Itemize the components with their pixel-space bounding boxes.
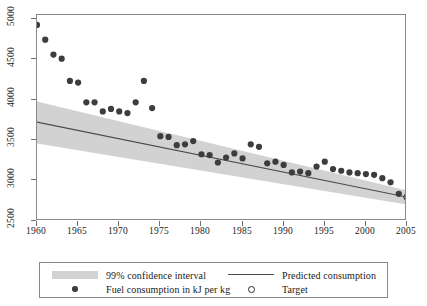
data-point bbox=[346, 169, 352, 175]
x-tick-label-2005: 2005 bbox=[386, 226, 426, 236]
data-point bbox=[207, 152, 213, 158]
fuel-consumption-chart-figure: 2500 3000 3500 4000 4500 5000 1960 1965 … bbox=[0, 0, 427, 306]
x-tick-label-1995: 1995 bbox=[304, 226, 344, 236]
y-tick-5000 bbox=[31, 18, 36, 19]
data-point bbox=[338, 168, 344, 174]
data-point bbox=[67, 78, 73, 84]
data-point bbox=[133, 99, 139, 105]
legend-label-target: Target bbox=[282, 284, 308, 295]
data-point bbox=[363, 171, 369, 177]
x-tick-label-1990: 1990 bbox=[263, 226, 303, 236]
data-point bbox=[141, 78, 147, 84]
data-point bbox=[100, 108, 106, 114]
chart-legend: 99% confidence interval Fuel consumption… bbox=[39, 262, 388, 298]
data-point bbox=[91, 99, 97, 105]
y-tick-4500 bbox=[31, 58, 36, 59]
data-point bbox=[387, 179, 393, 185]
data-point bbox=[322, 159, 328, 165]
y-tick-label-2500: 2500 bbox=[6, 201, 16, 235]
legend-entry-fuel-consumption: Fuel consumption in kJ per kg bbox=[44, 280, 230, 298]
data-point bbox=[248, 141, 254, 147]
data-point bbox=[83, 99, 89, 105]
y-tick-label-5000: 5000 bbox=[6, 0, 16, 33]
data-point bbox=[297, 168, 303, 174]
data-point bbox=[198, 151, 204, 157]
data-point bbox=[330, 166, 336, 172]
data-point bbox=[256, 144, 262, 150]
data-point bbox=[239, 155, 245, 161]
data-point bbox=[149, 105, 155, 111]
data-point bbox=[396, 191, 402, 197]
legend-entry-target: Target bbox=[220, 280, 308, 298]
y-tick-label-3000: 3000 bbox=[6, 161, 16, 195]
data-point bbox=[305, 170, 311, 176]
data-point bbox=[50, 51, 56, 57]
data-point bbox=[190, 138, 196, 144]
data-point bbox=[59, 56, 65, 62]
data-point bbox=[157, 133, 163, 139]
x-tick-label-1975: 1975 bbox=[139, 226, 179, 236]
x-tick-label-2000: 2000 bbox=[345, 226, 385, 236]
data-point bbox=[108, 106, 114, 112]
data-point bbox=[37, 22, 40, 28]
data-point bbox=[355, 170, 361, 176]
data-point bbox=[223, 154, 229, 160]
data-point bbox=[289, 169, 295, 175]
filled-circle-marker-icon bbox=[44, 280, 106, 298]
y-tick-label-4000: 4000 bbox=[6, 80, 16, 114]
x-tick-label-1970: 1970 bbox=[98, 226, 138, 236]
x-tick-label-1965: 1965 bbox=[57, 226, 97, 236]
plot-canvas bbox=[37, 15, 406, 220]
data-point bbox=[42, 37, 48, 43]
data-point bbox=[165, 134, 171, 140]
data-point bbox=[371, 172, 377, 178]
data-point bbox=[379, 175, 385, 181]
y-tick-label-4500: 4500 bbox=[6, 40, 16, 74]
data-point bbox=[272, 159, 278, 165]
target-marker bbox=[404, 194, 406, 200]
data-point bbox=[182, 141, 188, 147]
legend-label-confidence-interval: 99% confidence interval bbox=[106, 270, 206, 281]
y-tick-3500 bbox=[31, 139, 36, 140]
target-point bbox=[404, 194, 406, 200]
x-tick-label-1980: 1980 bbox=[180, 226, 220, 236]
x-tick-label-1985: 1985 bbox=[222, 226, 262, 236]
data-point bbox=[231, 150, 237, 156]
data-point bbox=[174, 142, 180, 148]
data-point bbox=[313, 164, 319, 170]
plot-area bbox=[36, 14, 406, 220]
x-tick-label-1960: 1960 bbox=[16, 226, 56, 236]
y-tick-4000 bbox=[31, 99, 36, 100]
legend-label-predicted-consumption: Predicted consumption bbox=[282, 270, 376, 281]
data-point bbox=[124, 110, 130, 116]
data-point bbox=[215, 159, 221, 165]
y-tick-3000 bbox=[31, 179, 36, 180]
legend-label-fuel-consumption: Fuel consumption in kJ per kg bbox=[106, 284, 230, 295]
y-tick-label-3500: 3500 bbox=[6, 120, 16, 154]
data-point bbox=[75, 79, 81, 85]
open-circle-marker-icon bbox=[220, 280, 282, 298]
data-point bbox=[264, 160, 270, 166]
confidence-interval-band bbox=[37, 102, 406, 205]
data-point bbox=[281, 162, 287, 168]
data-point bbox=[116, 108, 122, 114]
predicted-consumption-line bbox=[37, 122, 406, 197]
